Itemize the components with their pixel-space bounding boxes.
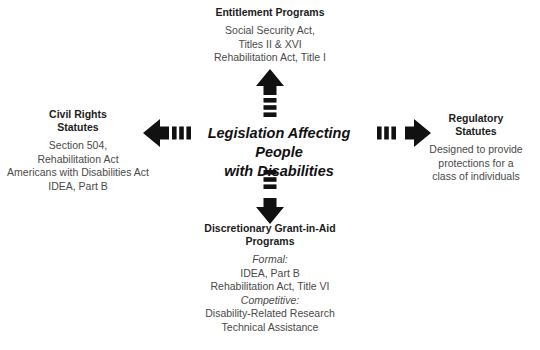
arrow-right-icon: [377, 119, 431, 147]
branch-bottom-line: Technical Assistance: [170, 321, 370, 335]
branch-bottom-line: Disability-Related Research: [170, 307, 370, 321]
arrow-up-icon: [256, 69, 284, 123]
branch-left-heading: Civil Rights Statutes: [0, 108, 156, 134]
branch-bottom-lines: Formal: IDEA, Part B Rehabilitation Act,…: [170, 253, 370, 334]
branch-bottom-line: Rehabilitation Act, Title VI: [170, 280, 370, 294]
branch-top-line: Rehabilitation Act, Title I: [150, 51, 390, 65]
branch-bottom-line: Formal:: [170, 253, 370, 267]
branch-right: Regulatory Statutes Designed to provide …: [412, 112, 540, 184]
branch-right-line: class of individuals: [412, 170, 540, 184]
arrow-down-icon: [256, 170, 284, 224]
branch-bottom-line: IDEA, Part B: [170, 267, 370, 281]
branch-top-lines: Social Security Act, Titles II & XVI Reh…: [150, 24, 390, 65]
branch-left: Civil Rights Statutes Section 504, Rehab…: [0, 108, 156, 193]
branch-right-lines: Designed to provide protections for a cl…: [412, 143, 540, 184]
branch-top: Entitlement Programs Social Security Act…: [150, 6, 390, 65]
branch-top-line: Social Security Act,: [150, 24, 390, 38]
branch-left-lines: Section 504, Rehabilitation Act American…: [0, 139, 156, 193]
branch-top-line: Titles II & XVI: [150, 38, 390, 52]
arrow-left-icon: [143, 119, 197, 147]
branch-left-line: IDEA, Part B: [0, 180, 156, 194]
branch-left-line: Section 504,: [0, 139, 156, 153]
branch-top-heading: Entitlement Programs: [150, 6, 390, 19]
branch-left-line: Rehabilitation Act: [0, 153, 156, 167]
branch-bottom-heading: Discretionary Grant-in-Aid Programs: [170, 222, 370, 248]
branch-right-heading: Regulatory Statutes: [412, 112, 540, 138]
branch-right-line: Designed to provide: [412, 143, 540, 157]
branch-left-line: Americans with Disabilities Act: [0, 166, 156, 180]
branch-bottom-line: Competitive:: [170, 294, 370, 308]
branch-right-line: protections for a: [412, 157, 540, 171]
branch-bottom: Discretionary Grant-in-Aid Programs Form…: [170, 222, 370, 334]
legislation-concept-diagram: Entitlement Programs Social Security Act…: [0, 0, 540, 350]
